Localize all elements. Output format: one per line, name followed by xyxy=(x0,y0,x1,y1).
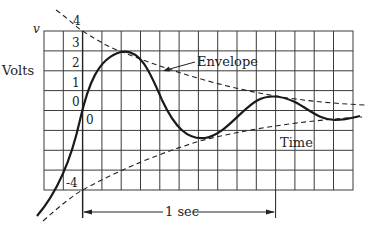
y-tick-neg4: -4 xyxy=(66,176,78,190)
y-tick-3: 3 xyxy=(72,36,80,50)
y-tick-1: 1 xyxy=(72,76,80,90)
y-tick-2: 2 xyxy=(72,56,80,70)
y-axis-symbol: v xyxy=(33,22,40,36)
origin-time-label: 0 xyxy=(86,113,94,127)
time-axis-label: Time xyxy=(280,135,313,150)
diagram-canvas: v Volts 4 3 2 1 0 -4 0 Envelope Time 1 s… xyxy=(0,0,375,231)
dimension-arrowhead-left xyxy=(83,210,92,215)
envelope-pointer-arrow xyxy=(166,62,195,70)
duration-label: 1 sec xyxy=(165,204,199,219)
y-tick-4: 4 xyxy=(73,14,81,28)
envelope-label: Envelope xyxy=(197,54,258,69)
dimension-arrowhead-right xyxy=(266,210,275,215)
y-tick-0: 0 xyxy=(72,95,80,109)
y-axis-label: Volts xyxy=(1,63,34,78)
